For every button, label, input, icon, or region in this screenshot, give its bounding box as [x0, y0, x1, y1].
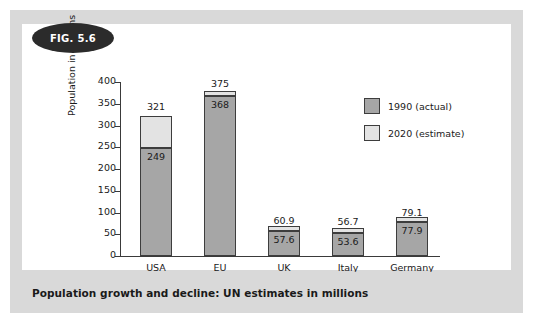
x-axis-line	[120, 256, 440, 257]
bar-value-actual: 53.6	[333, 236, 363, 247]
bar-segment-actual[interactable]: 77.9	[396, 222, 428, 256]
figure-container: Population in millions 05010015020025030…	[10, 10, 523, 313]
legend-swatch-actual	[364, 98, 380, 114]
bar-group[interactable]: 368375EU	[204, 82, 236, 256]
legend-swatch-estimate	[364, 125, 380, 141]
bar-group[interactable]: 53.656.7Italy	[332, 82, 364, 256]
y-tick-label: 50	[90, 227, 116, 238]
legend-item[interactable]: 1990 (actual)	[364, 98, 464, 114]
bar-value-estimate: 60.9	[258, 215, 310, 226]
bar-value-actual: 368	[205, 99, 235, 110]
y-tick-label: 150	[90, 184, 116, 195]
bar-value-actual: 57.6	[269, 234, 299, 245]
chart-panel: Population in millions 05010015020025030…	[22, 24, 511, 270]
bar-segment-actual[interactable]: 249	[140, 148, 172, 256]
y-tick-label: 100	[90, 206, 116, 217]
bar-value-estimate: 56.7	[322, 216, 374, 227]
y-tick-label: 0	[90, 249, 116, 260]
figure-caption-text: Population growth and decline: UN estima…	[32, 287, 368, 299]
figure-caption-band: Population growth and decline: UN estima…	[10, 272, 523, 313]
y-tick-label: 250	[90, 140, 116, 151]
legend-label: 1990 (actual)	[388, 101, 452, 112]
bar-value-actual: 77.9	[397, 225, 427, 236]
bar-value-estimate: 375	[194, 78, 246, 89]
bar-segment-actual[interactable]: 368	[204, 96, 236, 256]
bar-value-actual: 249	[141, 151, 171, 162]
chart-legend: 1990 (actual)2020 (estimate)	[364, 98, 464, 152]
bar-segment-actual[interactable]: 53.6	[332, 233, 364, 256]
y-axis-line	[120, 82, 121, 256]
figure-number-label: FIG. 5.6	[50, 33, 96, 44]
figure-number-badge: FIG. 5.6	[32, 23, 114, 53]
y-tick-label: 400	[90, 75, 116, 86]
bar-segment-estimate[interactable]	[140, 116, 172, 147]
bar-value-estimate: 321	[130, 101, 182, 112]
y-tick-label: 200	[90, 162, 116, 173]
legend-item[interactable]: 2020 (estimate)	[364, 125, 464, 141]
bar-value-estimate: 79.1	[386, 207, 438, 218]
y-tick-label: 300	[90, 119, 116, 130]
bar-segment-actual[interactable]: 57.6	[268, 231, 300, 256]
bar-group[interactable]: 57.660.9UK	[268, 82, 300, 256]
y-tick-label: 350	[90, 97, 116, 108]
legend-label: 2020 (estimate)	[388, 128, 464, 139]
bar-group[interactable]: 249321USA	[140, 82, 172, 256]
